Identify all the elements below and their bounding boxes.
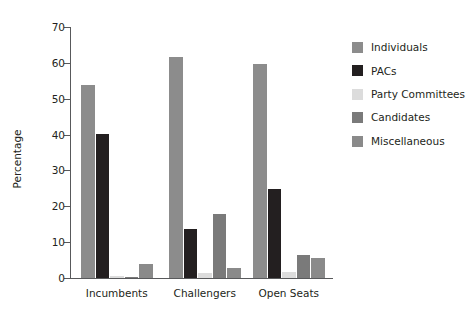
legend-swatch	[352, 42, 363, 53]
legend: IndividualsPACsParty CommitteesCandidate…	[352, 38, 465, 155]
x-axis-label: Incumbents	[86, 287, 148, 299]
bar	[110, 276, 124, 279]
legend-label: Miscellaneous	[371, 136, 445, 147]
y-tick-label: 10	[52, 237, 65, 248]
y-axis-line	[70, 27, 71, 279]
legend-item: Miscellaneous	[352, 132, 465, 151]
x-axis-line	[70, 278, 333, 279]
bar	[213, 214, 227, 278]
bar	[125, 277, 139, 278]
legend-label: PACs	[371, 66, 396, 77]
bar	[139, 264, 153, 278]
legend-item: Individuals	[352, 38, 465, 57]
bar-group: Incumbents	[81, 27, 155, 278]
bar	[311, 258, 325, 278]
bar	[227, 268, 241, 278]
bar	[184, 229, 198, 278]
x-axis-label: Challengers	[174, 287, 236, 299]
legend-item: PACs	[352, 61, 465, 80]
bar	[253, 64, 267, 278]
y-tick-label: 50	[52, 93, 65, 104]
bar-group: Open Seats	[253, 27, 327, 278]
legend-label: Candidates	[371, 112, 430, 123]
legend-item: Party Committees	[352, 85, 465, 104]
legend-item: Candidates	[352, 108, 465, 127]
bar-chart: Percentage 010203040506070 IncumbentsCha…	[0, 0, 473, 318]
legend-label: Party Committees	[371, 89, 465, 100]
legend-swatch	[352, 65, 363, 76]
y-tick-label: 30	[52, 165, 65, 176]
x-axis-label: Open Seats	[258, 287, 319, 299]
bar	[96, 134, 110, 278]
legend-swatch	[352, 89, 363, 100]
y-tick-label: 20	[52, 201, 65, 212]
legend-swatch	[352, 112, 363, 123]
y-axis-title: Percentage	[11, 129, 23, 188]
legend-label: Individuals	[371, 42, 428, 53]
bar	[169, 57, 183, 278]
bar	[282, 272, 296, 278]
bar-group: Challengers	[169, 27, 243, 278]
bar	[268, 189, 282, 278]
bar	[81, 85, 95, 278]
plot-area: 010203040506070 IncumbentsChallengersOpe…	[70, 27, 333, 279]
bar	[297, 255, 311, 278]
y-tick-label: 40	[52, 129, 65, 140]
legend-swatch	[352, 136, 363, 147]
y-tick-label: 70	[52, 22, 65, 33]
bar	[198, 273, 212, 278]
y-tick-label: 60	[52, 58, 65, 69]
y-tick-label: 0	[58, 273, 65, 284]
